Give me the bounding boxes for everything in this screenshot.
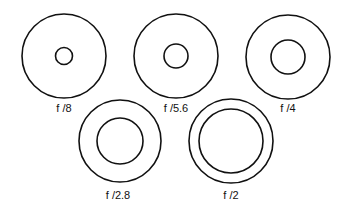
label-f4: f /4 <box>258 102 318 114</box>
aperture-opening-circle <box>56 48 73 65</box>
lens-outer-circle <box>22 14 106 98</box>
aperture-opening-circle <box>199 109 263 173</box>
aperture-opening-circle <box>97 118 143 164</box>
aperture-f4 <box>246 15 330 99</box>
aperture-opening-circle <box>164 44 188 68</box>
aperture-f8 <box>22 14 106 98</box>
label-f2-8: f /2.8 <box>88 189 148 201</box>
aperture-opening-circle <box>271 40 305 74</box>
label-f2: f /2 <box>201 189 261 201</box>
label-f5-6: f /5.6 <box>146 102 206 114</box>
lens-outer-circle <box>246 15 330 99</box>
aperture-f5-6 <box>134 14 218 98</box>
label-f8: f /8 <box>34 102 94 114</box>
lens-outer-circle <box>134 14 218 98</box>
